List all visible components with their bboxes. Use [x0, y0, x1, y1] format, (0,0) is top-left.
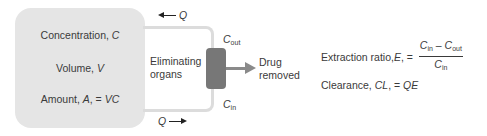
arrow-left-icon	[160, 15, 176, 16]
organs-line2: organs	[150, 68, 201, 81]
amount-expr: VC	[105, 93, 120, 105]
volume-text: Volume,	[56, 62, 97, 74]
removed-line1: Drug	[259, 56, 300, 69]
flow-top: Q	[160, 9, 187, 21]
extraction-label: Extraction ratio,	[321, 51, 394, 63]
volume-symbol: V	[97, 62, 104, 74]
fraction-denominator: Cin	[434, 57, 447, 74]
clearance-eq: , =	[388, 79, 403, 91]
num-b-sub: out	[452, 45, 462, 52]
removed-line2: removed	[259, 69, 300, 82]
arrow-right-icon	[169, 121, 185, 122]
c-out-label: Cout	[223, 33, 240, 49]
drug-removed-label: Drug removed	[259, 56, 300, 82]
c-out-symbol: C	[223, 33, 231, 45]
volume-label: Volume, V	[15, 62, 145, 74]
amount-eq: , =	[90, 93, 105, 105]
flow-bottom: Q	[158, 115, 185, 127]
clearance-equation: Clearance, CL, = QE	[321, 79, 418, 91]
concentration-label: Concentration, C	[15, 29, 145, 41]
amount-text: Amount,	[41, 93, 83, 105]
eliminating-organs-label: Eliminating organs	[150, 55, 201, 81]
extraction-eq: , =	[401, 51, 416, 63]
clearance-symbol: CL	[375, 79, 388, 91]
clearance-label: Clearance,	[321, 79, 375, 91]
amount-symbol: A	[83, 93, 90, 105]
flow-top-symbol: Q	[179, 9, 187, 21]
extraction-ratio-equation: Extraction ratio, E, = Cin – Cout Cin	[321, 39, 463, 74]
clearance-expr: QE	[403, 79, 418, 91]
fraction-numerator: Cin – Cout	[419, 39, 463, 57]
extraction-symbol: E	[394, 51, 401, 63]
c-out-sub: out	[231, 39, 241, 46]
amount-label: Amount, A, = VC	[15, 93, 145, 105]
num-op: –	[433, 39, 445, 51]
c-in-label: Cin	[223, 98, 236, 114]
flow-bottom-symbol: Q	[158, 115, 166, 127]
concentration-text: Concentration,	[41, 29, 112, 41]
concentration-symbol: C	[112, 29, 120, 41]
c-in-sub: in	[231, 104, 236, 111]
extraction-fraction: Cin – Cout Cin	[419, 39, 463, 74]
removal-arrow-line	[226, 67, 246, 70]
organ-block	[206, 48, 226, 89]
c-in-symbol: C	[223, 98, 231, 110]
den-a: C	[434, 58, 442, 70]
organs-line1: Eliminating	[150, 55, 201, 68]
removal-arrow-head-icon	[245, 62, 256, 74]
den-a-sub: in	[442, 64, 447, 71]
